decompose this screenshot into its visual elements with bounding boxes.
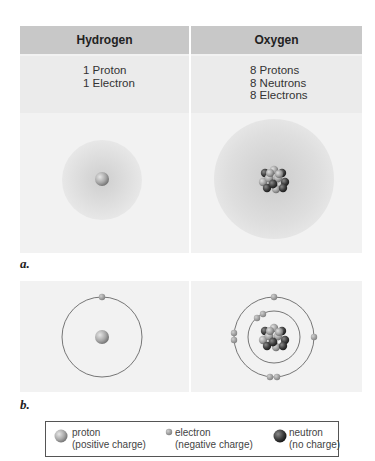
proton-icon [95, 172, 109, 186]
neutron-icon [273, 429, 287, 443]
proton-icon [54, 429, 68, 443]
oxygen-nucleus [259, 166, 289, 193]
legend: proton (positive charge) electron (negat… [45, 421, 339, 457]
legend-name: proton [72, 427, 146, 439]
legend-name: electron [175, 427, 253, 439]
electron-icon [165, 428, 173, 436]
hydrogen-column: Hydrogen 1 Proton 1 Electron [20, 26, 189, 253]
panel-a-electron-cloud: Hydrogen 1 Proton 1 Electron Oxygen 8 Pr… [20, 26, 362, 253]
electron-icon [99, 294, 105, 300]
oxygen-bohr-graphic [191, 281, 362, 392]
oxygen-nucleus-graphic [191, 26, 362, 253]
oxygen-column: Oxygen 8 Protons 8 Neutrons 8 Electrons [191, 26, 362, 253]
hydrogen-bohr-column [20, 281, 189, 392]
hydrogen-nucleus-graphic [20, 26, 189, 253]
panel-a-label: a. [20, 256, 30, 272]
legend-desc: (positive charge) [72, 439, 146, 451]
legend-name: neutron [289, 427, 340, 439]
proton-icon [95, 330, 109, 344]
legend-desc: (negative charge) [175, 439, 253, 451]
panel-b-bohr-model [20, 281, 362, 392]
legend-desc: (no charge) [289, 439, 340, 451]
oxygen-nucleus [259, 324, 289, 351]
panel-b-label: b. [20, 397, 30, 413]
oxygen-bohr-column [191, 281, 362, 392]
hydrogen-bohr-graphic [20, 281, 189, 392]
